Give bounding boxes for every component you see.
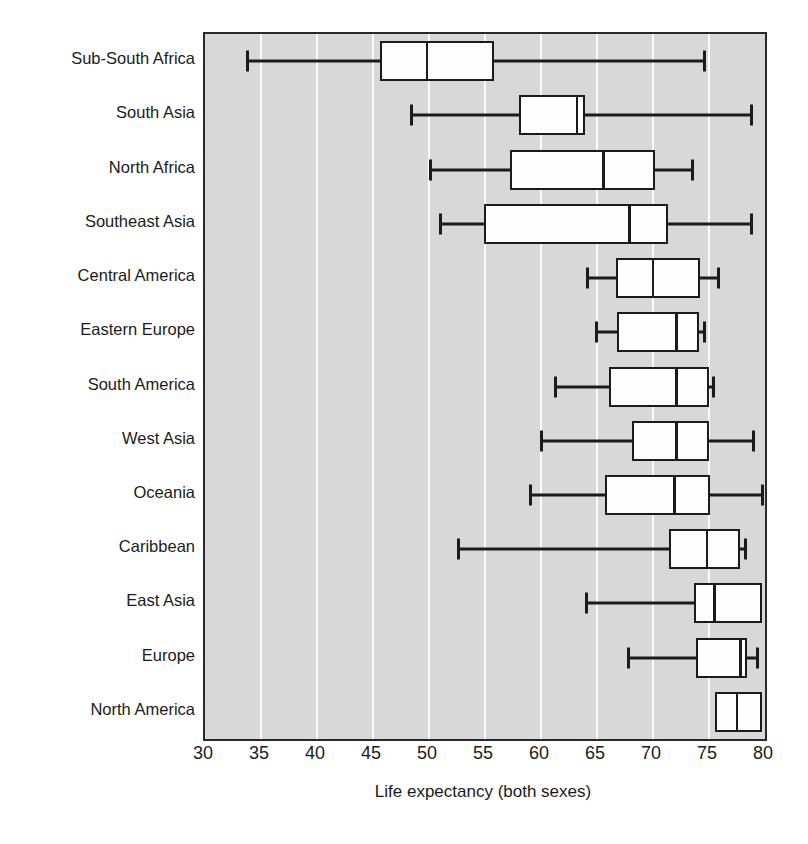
x-tick-label-45: 45 [341, 744, 401, 762]
upper-whisker-line [709, 439, 755, 442]
iqr-box [510, 150, 656, 190]
lower-whisker-line [439, 222, 484, 225]
median-line [673, 475, 676, 515]
lower-whisker-cap [586, 268, 589, 289]
category-label-east-asia: East Asia [7, 592, 195, 609]
lower-whisker-line [429, 168, 510, 171]
iqr-box [669, 529, 741, 569]
lower-whisker-cap [246, 51, 249, 72]
x-tick-label-50: 50 [397, 744, 457, 762]
upper-whisker-line [494, 60, 706, 63]
gridline-55 [484, 34, 486, 739]
category-label-south-asia: South Asia [7, 104, 195, 121]
category-label-sub-south-africa: Sub-South Africa [7, 50, 195, 67]
lower-whisker-line [246, 60, 379, 63]
iqr-box [609, 367, 709, 407]
median-line [675, 421, 678, 461]
lower-whisker-cap [540, 430, 543, 451]
x-tick-label-30: 30 [173, 744, 233, 762]
category-label-north-america: North America [7, 701, 195, 718]
median-line [713, 583, 716, 623]
boxplot-chart: Sub-South AfricaSouth AsiaNorth AfricaSo… [0, 0, 808, 844]
gridline-40 [316, 34, 318, 739]
lower-whisker-line [540, 439, 632, 442]
lower-whisker-line [586, 277, 616, 280]
lower-whisker-cap [585, 593, 588, 614]
gridline-50 [428, 34, 430, 739]
iqr-box [616, 258, 700, 298]
lower-whisker-cap [439, 213, 442, 234]
median-line [675, 367, 678, 407]
median-line [739, 638, 742, 678]
upper-whisker-cap [752, 430, 755, 451]
x-tick-label-60: 60 [509, 744, 569, 762]
upper-whisker-cap [744, 539, 747, 560]
gridline-45 [372, 34, 374, 739]
x-axis-title: Life expectancy (both sexes) [203, 782, 763, 802]
iqr-box [617, 312, 699, 352]
median-line [576, 95, 579, 135]
lower-whisker-cap [595, 322, 598, 343]
x-tick-label-35: 35 [229, 744, 289, 762]
category-label-central-america: Central America [7, 267, 195, 284]
median-line [736, 692, 739, 732]
category-label-west-asia: West Asia [7, 430, 195, 447]
category-label-caribbean: Caribbean [7, 538, 195, 555]
upper-whisker-cap [756, 647, 759, 668]
lower-whisker-cap [627, 647, 630, 668]
lower-whisker-cap [457, 539, 460, 560]
plot-area [203, 32, 767, 741]
upper-whisker-cap [703, 322, 706, 343]
upper-whisker-cap [750, 105, 753, 126]
iqr-box [380, 41, 494, 81]
upper-whisker-cap [717, 268, 720, 289]
median-line [426, 41, 429, 81]
iqr-box [632, 421, 709, 461]
lower-whisker-line [457, 548, 669, 551]
gridline-35 [260, 34, 262, 739]
median-line [706, 529, 709, 569]
category-axis-labels: Sub-South AfricaSouth AsiaNorth AfricaSo… [0, 32, 195, 737]
median-line [602, 150, 605, 190]
lower-whisker-line [627, 656, 695, 659]
x-tick-label-55: 55 [453, 744, 513, 762]
lower-whisker-line [595, 331, 617, 334]
upper-whisker-cap [750, 213, 753, 234]
upper-whisker-cap [703, 51, 706, 72]
iqr-box [694, 583, 761, 623]
x-tick-label-70: 70 [621, 744, 681, 762]
iqr-box [605, 475, 710, 515]
lower-whisker-cap [529, 484, 532, 505]
x-tick-label-40: 40 [285, 744, 345, 762]
x-tick-label-65: 65 [565, 744, 625, 762]
iqr-box [484, 204, 668, 244]
category-label-southeast-asia: Southeast Asia [7, 213, 195, 230]
median-line [675, 312, 678, 352]
lower-whisker-cap [554, 376, 557, 397]
lower-whisker-cap [429, 159, 432, 180]
lower-whisker-cap [410, 105, 413, 126]
category-label-oceania: Oceania [7, 484, 195, 501]
median-line [628, 204, 631, 244]
upper-whisker-cap [691, 159, 694, 180]
lower-whisker-line [554, 385, 609, 388]
median-line [652, 258, 655, 298]
category-label-south-america: South America [7, 376, 195, 393]
upper-whisker-cap [761, 484, 764, 505]
lower-whisker-line [410, 114, 519, 117]
x-tick-label-75: 75 [677, 744, 737, 762]
category-label-north-africa: North Africa [7, 159, 195, 176]
upper-whisker-line [585, 114, 753, 117]
upper-whisker-cap [712, 376, 715, 397]
x-axis-tick-labels: 3035404550556065707580 [0, 744, 808, 770]
lower-whisker-line [529, 493, 605, 496]
lower-whisker-line [585, 602, 695, 605]
upper-whisker-line [655, 168, 694, 171]
category-label-europe: Europe [7, 647, 195, 664]
upper-whisker-line [668, 222, 753, 225]
category-label-eastern-europe: Eastern Europe [7, 321, 195, 338]
upper-whisker-line [710, 493, 764, 496]
gridline-60 [540, 34, 542, 739]
x-tick-label-80: 80 [733, 744, 793, 762]
